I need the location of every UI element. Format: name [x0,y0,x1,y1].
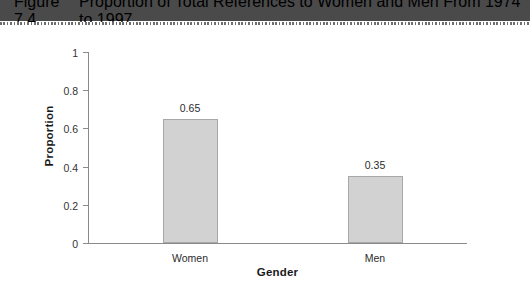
y-axis-line [88,52,89,244]
x-tick-label-women: Women [145,253,235,264]
y-tick-mark-0-8 [83,90,88,91]
y-tick-mark-0-4 [83,167,88,168]
x-axis-line [88,243,467,244]
y-tick-mark-0-6 [83,128,88,129]
y-tick-label-1: 1 [42,48,78,59]
y-tick-mark-0-2 [83,205,88,206]
bar-men[interactable] [348,176,403,243]
y-tick-label-0-2: 0.2 [42,201,78,212]
bar-value-men: 0.35 [340,160,410,171]
header-dotted-rule [0,22,530,25]
y-axis-title: Proportion [43,81,55,191]
x-tick-label-men: Men [330,253,420,264]
y-tick-mark-1 [83,52,88,53]
y-tick-mark-0 [83,243,88,244]
y-tick-label-0: 0 [42,239,78,250]
x-axis-title: Gender [88,266,467,278]
bar-women[interactable] [163,119,218,243]
figure-header-bar: Figure 7.4 Proportion of Total Reference… [0,0,530,21]
bar-value-women: 0.65 [155,103,225,114]
bar-chart: 1 0.8 0.6 0.4 0.2 0 Proportion 0.65 Wome… [0,26,530,290]
